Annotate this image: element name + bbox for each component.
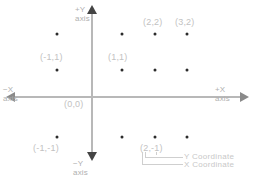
- callout-leader-y-horizontal: [145, 157, 183, 158]
- axis-label-positive-y-line2: axis: [75, 15, 90, 24]
- axis-label-negative-x: −X axis: [3, 86, 18, 103]
- data-point: [154, 136, 157, 139]
- axis-label-positive-y: +Y axis: [75, 6, 90, 23]
- callout-label-x-coordinate: X Coordinate: [184, 160, 234, 169]
- data-point: [121, 69, 124, 72]
- callout-leader-x-tick: [156, 152, 157, 155]
- point-label-neg1-1: (-1,1): [40, 52, 63, 62]
- data-point: [56, 136, 59, 139]
- callout-leader-x-vertical: [142, 152, 143, 164]
- axis-label-positive-x: +X axis: [215, 86, 230, 103]
- callout-leader-x-horizontal: [142, 164, 183, 165]
- negative-y-arrowhead-icon: [87, 152, 97, 161]
- data-point: [56, 33, 59, 36]
- axis-label-positive-x-line2: axis: [215, 95, 230, 104]
- positive-x-arrowhead-icon: [240, 92, 249, 102]
- data-point: [121, 33, 124, 36]
- point-label-neg1-neg1: (-1,-1): [33, 143, 59, 153]
- data-point: [154, 33, 157, 36]
- axis-label-negative-y: −Y axis: [73, 160, 88, 177]
- data-point: [56, 69, 59, 72]
- point-label-origin: (0,0): [64, 99, 84, 109]
- data-point: [186, 69, 189, 72]
- data-point: [186, 33, 189, 36]
- data-point: [121, 136, 124, 139]
- coordinate-plane-diagram: +Y axis −Y axis −X axis +X axis (0,0) (2…: [0, 0, 255, 180]
- axis-label-negative-x-line2: axis: [3, 95, 18, 104]
- point-label-3-2: (3,2): [175, 17, 195, 27]
- x-axis-line: [14, 96, 242, 98]
- data-point: [186, 136, 189, 139]
- point-label-2-2: (2,2): [143, 17, 163, 27]
- axis-label-negative-y-line2: axis: [73, 169, 88, 178]
- point-label-2-neg1: (2,-1): [140, 143, 163, 153]
- y-axis-line: [91, 12, 93, 155]
- point-label-1-1: (1,1): [108, 52, 128, 62]
- data-point: [154, 69, 157, 72]
